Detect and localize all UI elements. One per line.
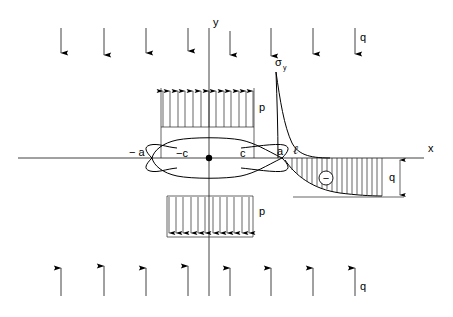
pressure-top-label: p (259, 101, 265, 113)
stress-symbol-subscript-y: y (283, 64, 287, 72)
compression-zone-hatching (292, 158, 377, 196)
crack-label-minus-a: − a (129, 146, 145, 158)
crack-label-minus-c: −c (176, 147, 188, 159)
x-axis-label: x (428, 142, 434, 154)
remote-load-bottom-group: q (61, 266, 366, 296)
axes-group: x y (18, 16, 434, 296)
remote-load-top-group: q (61, 28, 366, 56)
q-dimension-group: q (389, 160, 400, 195)
figure-canvas: q q x y (0, 0, 453, 317)
compression-zone-group: − q (285, 158, 404, 197)
origin-dot (206, 155, 212, 161)
stress-symbol-sigma: σ (275, 56, 282, 68)
remote-load-top-label: q (360, 31, 366, 43)
q-dimension-label: q (389, 171, 395, 183)
remote-load-bottom-label: q (360, 280, 366, 292)
stress-curve-group: σ y (275, 56, 330, 158)
crack-right-tip-wave-lower (241, 158, 288, 172)
crack-lower-boundary (152, 158, 282, 178)
pressure-block-bottom: p (167, 196, 265, 237)
compression-zone-envelope (285, 160, 382, 196)
fracture-mechanics-figure: q q x y (0, 0, 453, 317)
negative-sign-glyph: − (323, 172, 329, 184)
remote-load-top-arrows (61, 28, 355, 56)
pressure-top-arrows (163, 91, 253, 127)
y-axis-label: y (213, 16, 219, 28)
crack-upper-boundary (152, 138, 282, 158)
crack-label-c: c (240, 147, 246, 159)
remote-load-bottom-arrows (61, 266, 355, 296)
pressure-bottom-label: p (259, 205, 265, 217)
